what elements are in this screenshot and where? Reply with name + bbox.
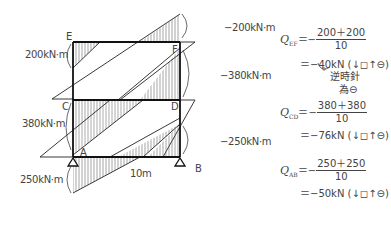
equation-q-cd: QCD＝−380＋38010 [280, 100, 367, 125]
moment-label-ef-left: 200kN·m [25, 49, 68, 60]
node-d-label: D [171, 101, 179, 112]
moment-label-cd-left: 380kN·m [22, 118, 65, 129]
moment-label-ab-right: −250kN·m [220, 136, 271, 147]
node-c-label: C [62, 101, 69, 112]
equation-q-cd-result: ＝−76kN (↓◻↑⊖) [300, 127, 389, 142]
node-f-label: F [172, 44, 178, 55]
moment-label-cd-right: −380kN·m [220, 70, 271, 81]
note-negative: 為⊖ [339, 81, 357, 96]
node-a-label: A [80, 147, 87, 158]
equation-q-ab-result: ＝−50kN (↓◻↑⊖) [300, 185, 389, 200]
hatch-fd [140, 48, 180, 100]
support-b-icon [175, 158, 185, 166]
node-b-label: B [195, 163, 202, 174]
equation-q-ab: QAB＝−250＋25010 [280, 158, 366, 183]
moment-label-ab-left: 250kN·m [20, 174, 63, 185]
equation-q-ef: QEF＝−200＋20010 [280, 27, 366, 52]
span-length-label: 10m [130, 168, 152, 179]
node-e-label: E [66, 31, 72, 42]
moment-label-ef-right: −200kN·m [224, 22, 275, 33]
